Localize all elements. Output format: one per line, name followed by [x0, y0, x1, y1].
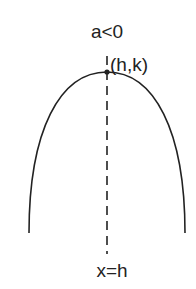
concavity-label: a<0 [91, 21, 123, 42]
vertex-point [104, 69, 109, 74]
axis-equation-label: x=h [96, 260, 127, 281]
parabola-diagram: a<0 (h,k) x=h [0, 0, 196, 289]
